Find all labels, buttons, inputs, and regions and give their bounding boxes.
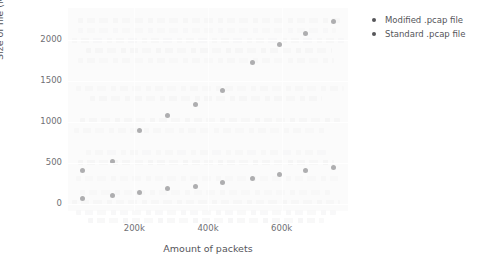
y-axis-label: Size of file (MB) — [0, 0, 5, 60]
y-axis-tick-label: 500 — [20, 158, 62, 167]
plot-area — [68, 8, 348, 211]
x-gridline — [282, 8, 283, 211]
x-gridline — [134, 8, 135, 211]
x-axis-tick-label: 200k — [114, 224, 154, 233]
legend-entry[interactable]: Modified .pcap file — [372, 13, 465, 27]
legend-marker-icon — [372, 18, 376, 22]
x-axis-label: Amount of packets — [68, 243, 348, 254]
x-axis-tick-label: 600k — [262, 224, 302, 233]
x-axis-tick-label: 400k — [188, 224, 228, 233]
scatter-chart-figure: 0500100015002000200k400k600k Size of fil… — [0, 0, 478, 268]
legend-marker-icon — [372, 32, 376, 36]
legend-entry[interactable]: Standard .pcap file — [372, 27, 465, 41]
x-gridline — [208, 8, 209, 211]
legend-label: Modified .pcap file — [385, 15, 463, 25]
chart-legend: Modified .pcap fileStandard .pcap file — [372, 13, 465, 41]
y-axis-tick-label: 1000 — [20, 117, 62, 126]
y-axis-tick-label: 1500 — [20, 76, 62, 85]
y-axis-tick-label: 2000 — [20, 35, 62, 44]
legend-label: Standard .pcap file — [385, 29, 465, 39]
y-axis-tick-label: 0 — [20, 199, 62, 208]
